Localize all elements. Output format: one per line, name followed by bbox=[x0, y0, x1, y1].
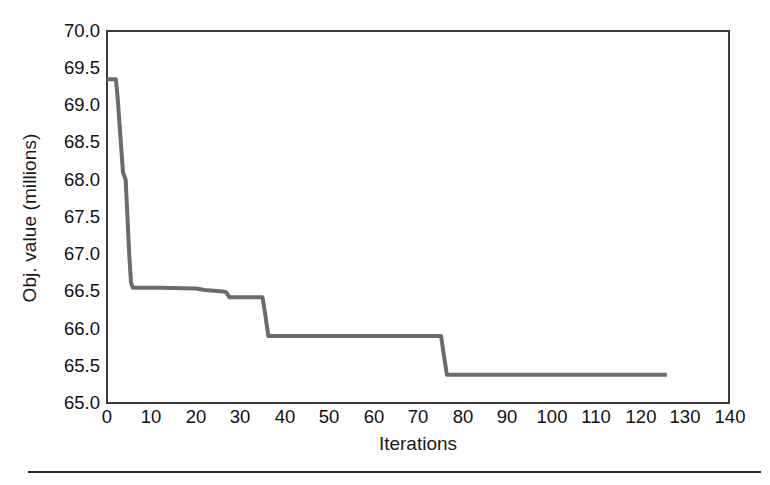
bottom-rule bbox=[28, 471, 761, 473]
plot-frame bbox=[107, 31, 729, 403]
chart-figure: Obj. value (millions) 70.0 69.5 69.0 68.… bbox=[0, 0, 770, 485]
plot-area bbox=[0, 0, 770, 485]
x-axis-title: Iterations bbox=[107, 432, 729, 456]
objective-value-line bbox=[107, 79, 667, 374]
